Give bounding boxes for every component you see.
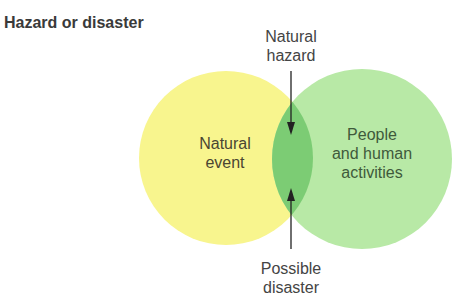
people-line2: and human: [322, 144, 422, 163]
natural-event-line2: event: [180, 153, 270, 172]
natural-hazard-label: Natural hazard: [251, 27, 331, 65]
natural-event-line1: Natural: [180, 134, 270, 153]
possible-disaster-label: Possible disaster: [246, 259, 336, 297]
people-label: People and human activities: [322, 125, 422, 182]
natural-hazard-line2: hazard: [251, 46, 331, 65]
natural-event-label: Natural event: [180, 134, 270, 172]
natural-hazard-line1: Natural: [251, 27, 331, 46]
possible-disaster-line1: Possible: [246, 259, 336, 278]
people-line1: People: [322, 125, 422, 144]
people-line3: activities: [322, 163, 422, 182]
possible-disaster-line2: disaster: [246, 278, 336, 297]
